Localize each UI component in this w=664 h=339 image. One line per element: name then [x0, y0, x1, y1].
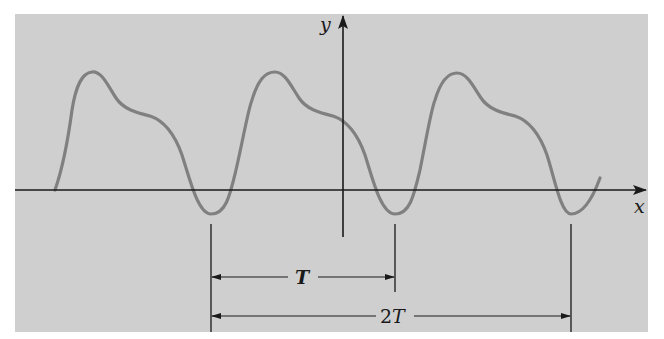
y-axis-label: y — [319, 13, 331, 35]
x-axis-label: x — [634, 195, 645, 217]
period-label: T — [295, 266, 311, 288]
double-period-label: 2T — [380, 305, 406, 327]
periodic-function-diagram: y x T 2T — [0, 0, 664, 339]
